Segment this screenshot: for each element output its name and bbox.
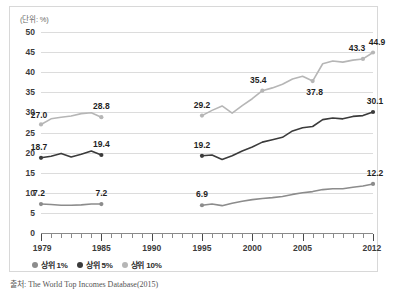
series-marker-top1-1985: [99, 202, 103, 206]
value-label-top10-1985: 28.8: [93, 101, 110, 111]
legend-swatch-icon-top1: [32, 262, 38, 268]
x-tick-minor-1989: [142, 234, 143, 238]
legend-swatch-icon-top5: [77, 262, 83, 268]
value-label-top10-2006: 37.8: [306, 87, 323, 97]
y-tick-label-5: 5: [30, 208, 35, 218]
series-line-top1: [202, 184, 373, 206]
series-line-top10: [41, 113, 101, 125]
series-line-top1: [41, 204, 101, 205]
series-marker-top10-2011: [361, 57, 365, 61]
y-tick-label-15: 15: [26, 168, 35, 178]
y-tick-label-0: 0: [30, 228, 35, 238]
value-label-top10-2011: 43.3: [349, 43, 366, 53]
x-tick-major-1985: [101, 234, 102, 241]
x-tick-minor-1994: [192, 234, 193, 238]
series-marker-top5-1985: [99, 153, 103, 157]
x-tick-major-2000: [252, 234, 253, 241]
x-tick-minor-2010: [353, 234, 354, 238]
x-tick-minor-1998: [232, 234, 233, 238]
x-tick-minor-2008: [333, 234, 334, 238]
x-tick-label-1990: 1990: [142, 243, 161, 253]
legend-item-top5[interactable]: 상위 5%: [77, 259, 113, 270]
value-label-top5-1995: 19.2: [194, 140, 211, 150]
x-tick-major-1995: [202, 234, 203, 241]
value-label-top1-1979: 7.2: [33, 188, 45, 198]
series-marker-top1-1979: [39, 202, 43, 206]
x-tick-major-1979: [41, 234, 42, 241]
series-marker-top10-2012: [371, 50, 375, 54]
series-line-top10: [202, 53, 373, 116]
x-tick-minor-1982: [71, 234, 72, 238]
x-tick-major-1990: [152, 234, 153, 241]
value-label-top1-2012: 12.2: [367, 168, 384, 178]
value-label-top10-1995: 29.2: [194, 100, 211, 110]
x-tick-minor-1987: [121, 234, 122, 238]
value-label-top10-1979: 27.0: [31, 110, 48, 120]
x-tick-label-2012: 2012: [362, 243, 381, 253]
series-marker-top5-1995: [200, 154, 204, 158]
x-axis: 1979198519901995200020052012: [41, 233, 373, 257]
legend-item-top10[interactable]: 상위 10%: [122, 259, 162, 270]
x-tick-minor-2009: [343, 234, 344, 238]
series-marker-top10-1985: [99, 115, 103, 119]
x-tick-minor-1988: [132, 234, 133, 238]
x-tick-minor-1986: [111, 234, 112, 238]
x-tick-label-2005: 2005: [293, 243, 312, 253]
y-tick-label-25: 25: [26, 128, 35, 138]
value-label-top5-2012: 30.1: [367, 96, 384, 106]
series-marker-top5-1979: [39, 156, 43, 160]
legend-label-top10: 상위 10%: [131, 259, 162, 270]
value-label-top1-1995: 6.9: [196, 189, 208, 199]
value-label-top5-1979: 18.7: [31, 142, 48, 152]
x-tick-minor-1999: [242, 234, 243, 238]
x-tick-minor-1992: [172, 234, 173, 238]
x-tick-minor-2002: [272, 234, 273, 238]
series-marker-top1-1995: [200, 203, 204, 207]
series-line-top5: [41, 151, 101, 158]
series-marker-top10-2006: [311, 79, 315, 83]
value-label-top10-2001: 35.4: [250, 75, 267, 85]
chart-panel: (단위: %) 05101520253035404550 27.028.829.…: [9, 6, 378, 272]
x-tick-minor-1993: [182, 234, 183, 238]
series-marker-top10-1979: [39, 122, 43, 126]
y-tick-label-45: 45: [26, 47, 35, 57]
x-tick-minor-2006: [313, 234, 314, 238]
unit-label: (단위: %): [20, 13, 48, 24]
series-marker-top1-2012: [371, 182, 375, 186]
series-marker-top10-2001: [260, 89, 264, 93]
x-tick-label-1995: 1995: [193, 243, 212, 253]
source-note: 출처: The World Top Incomes Database(2015): [10, 278, 158, 289]
series-lines: [41, 32, 373, 233]
value-label-top10-2012: 44.9: [369, 37, 386, 47]
x-tick-minor-1983: [81, 234, 82, 238]
legend-item-top1[interactable]: 상위 1%: [32, 259, 68, 270]
plot-area: 05101520253035404550 27.028.829.235.437.…: [41, 32, 373, 233]
x-tick-major-2005: [303, 234, 304, 241]
x-tick-major-2012: [373, 234, 374, 241]
x-tick-label-1979: 1979: [33, 243, 52, 253]
x-tick-minor-2007: [323, 234, 324, 238]
x-tick-minor-2001: [262, 234, 263, 238]
x-tick-label-1985: 1985: [92, 243, 111, 253]
x-tick-minor-1996: [212, 234, 213, 238]
x-tick-minor-1997: [222, 234, 223, 238]
y-tick-label-40: 40: [26, 67, 35, 77]
value-label-top1-1985: 7.2: [95, 188, 107, 198]
value-label-top5-1985: 19.4: [93, 139, 110, 149]
x-tick-minor-1980: [51, 234, 52, 238]
chart-legend: 상위 1%상위 5%상위 10%: [32, 259, 162, 270]
chart-screenshot: (단위: %) 05101520253035404550 27.028.829.…: [0, 0, 398, 290]
x-tick-minor-1991: [162, 234, 163, 238]
legend-label-top1: 상위 1%: [41, 259, 68, 270]
x-tick-minor-1984: [91, 234, 92, 238]
x-tick-minor-2003: [282, 234, 283, 238]
x-tick-minor-1981: [61, 234, 62, 238]
series-marker-top5-2012: [371, 110, 375, 114]
series-marker-top10-1995: [200, 114, 204, 118]
x-tick-minor-2004: [293, 234, 294, 238]
x-tick-label-2000: 2000: [243, 243, 262, 253]
legend-label-top5: 상위 5%: [86, 259, 113, 270]
x-tick-minor-2011: [363, 234, 364, 238]
series-line-top5: [202, 112, 373, 159]
y-tick-label-50: 50: [26, 27, 35, 37]
